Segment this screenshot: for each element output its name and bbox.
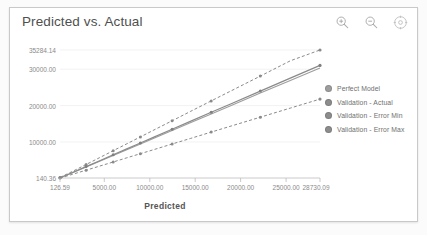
chart-container: 35284.14 30000.00 20000.00 10000.00 140.… <box>10 38 417 223</box>
series-validation-error-min <box>59 98 322 180</box>
x-tick-label: 20000.00 <box>227 184 254 191</box>
settings-gear-icon[interactable] <box>393 15 408 30</box>
zoom-out-icon[interactable] <box>364 15 379 30</box>
legend-label: Perfect Model <box>337 85 380 92</box>
series-validation-actual <box>59 64 322 179</box>
legend-label: Validation - Error Min <box>337 112 403 119</box>
screenshot-root: Predicted vs. Actual <box>0 0 427 235</box>
x-tick-marks <box>60 178 320 182</box>
legend-color-swatch <box>325 126 332 133</box>
legend-color-swatch <box>325 85 332 92</box>
x-tick-label: 15000.00 <box>182 184 209 191</box>
y-tick-label: 10000.00 <box>29 139 56 146</box>
page-title: Predicted vs. Actual <box>22 14 143 29</box>
zoom-in-icon[interactable] <box>335 15 350 30</box>
legend-color-swatch <box>325 112 332 119</box>
y-tick-label: 35284.14 <box>29 47 56 54</box>
header-toolbar <box>335 15 408 30</box>
x-axis-labels: 126.59 5000.00 10000.00 15000.00 20000.0… <box>10 184 419 198</box>
legend-item-validation-error-min[interactable]: Validation - Error Min <box>325 109 421 123</box>
x-tick-label: 10000.00 <box>136 184 163 191</box>
y-axis-labels: 35284.14 30000.00 20000.00 10000.00 140.… <box>10 38 58 190</box>
y-tick-label: 20000.00 <box>29 102 56 109</box>
legend-color-swatch <box>325 99 332 106</box>
x-tick-label: 5000.00 <box>93 184 117 191</box>
legend-item-validation-error-max[interactable]: Validation - Error Max <box>325 123 421 137</box>
legend-label: Validation - Actual <box>337 99 393 106</box>
card-header: Predicted vs. Actual <box>10 8 417 38</box>
series-validation-error-max <box>59 48 322 179</box>
legend-label: Validation - Error Max <box>337 126 404 133</box>
x-tick-label: 25000.00 <box>273 184 300 191</box>
x-tick-label: 126.59 <box>50 184 70 191</box>
x-axis-title: Predicted <box>10 201 320 211</box>
legend-item-validation-actual[interactable]: Validation - Actual <box>325 96 421 110</box>
plot-area[interactable] <box>60 50 320 178</box>
gridlines <box>60 50 320 142</box>
legend-item-perfect-model[interactable]: Perfect Model <box>325 82 421 96</box>
predicted-vs-actual-card: Predicted vs. Actual <box>9 7 418 222</box>
chart-legend: Perfect Model Validation - Actual Valida… <box>325 82 421 136</box>
y-tick-label: 30000.00 <box>29 66 56 73</box>
x-tick-label: 28730.09 <box>302 184 329 191</box>
plot-svg <box>60 50 320 178</box>
y-tick-label: 140.36 <box>36 175 56 182</box>
